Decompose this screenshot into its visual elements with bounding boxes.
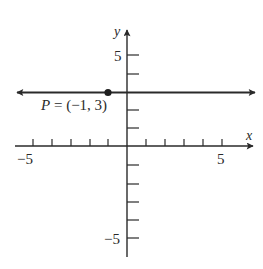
- point-label-var: P: [40, 97, 50, 113]
- point-label: P = (−1, 3): [40, 97, 107, 114]
- x-tick-label-5: 5: [217, 151, 225, 167]
- y-tick-label-neg5: −5: [104, 231, 120, 247]
- x-axis-label: x: [245, 128, 253, 143]
- point-label-coords: = (−1, 3): [50, 97, 107, 114]
- coordinate-plane: y x 5 −5 −5 5 P = (−1, 3): [0, 0, 263, 269]
- x-tick-label-neg5: −5: [17, 151, 33, 167]
- point-p: [104, 89, 111, 96]
- y-axis-label: y: [112, 24, 121, 39]
- y-tick-label-5: 5: [114, 48, 122, 64]
